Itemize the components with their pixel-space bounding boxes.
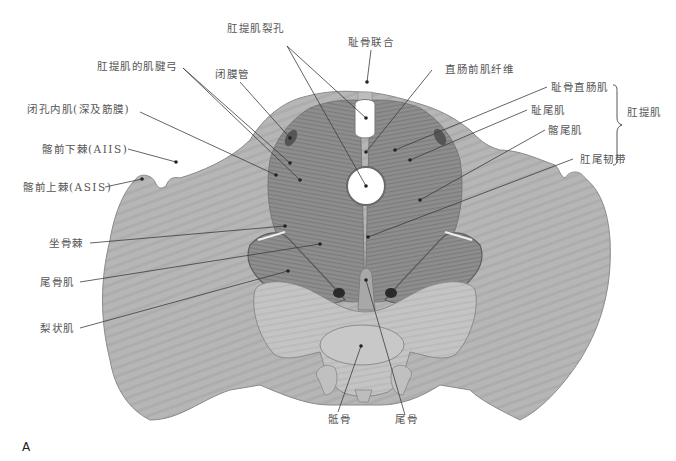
label-asis: 髂前上棘(ASIS) [23, 181, 112, 193]
label-tendinous-arch: 肛提肌的肌腱弓 [97, 60, 178, 72]
label-aiis: 髂前下棘(AIIS) [42, 143, 128, 155]
label-puborectalis: 耻骨直肠肌 [551, 81, 609, 93]
label-levator-ani: 肛提肌 [627, 106, 662, 118]
label-pubococcygeus: 耻尾肌 [531, 104, 566, 116]
panel-letter: A [22, 440, 30, 454]
label-levator-hiatus: 肛提肌裂孔 [227, 22, 285, 34]
label-obturator-internus: 闭孔内肌(深及筋膜) [27, 103, 130, 115]
label-coccygeus: 尾骨肌 [40, 276, 75, 288]
label-anococcygeal-ligament: 肛尾韧带 [580, 153, 626, 165]
label-iliococcygeus: 髂尾肌 [548, 124, 583, 136]
label-coccyx: 尾骨 [395, 413, 418, 425]
label-obturator-canal: 闭膜管 [215, 68, 250, 80]
label-prerectal-fibers: 直肠前肌纤维 [445, 63, 514, 75]
label-ischial-spine: 坐骨棘 [49, 237, 84, 249]
label-piriformis: 梨状肌 [40, 322, 75, 334]
label-sacrum: 骶骨 [328, 413, 351, 425]
label-pubic-symphysis: 耻骨联合 [348, 36, 394, 48]
